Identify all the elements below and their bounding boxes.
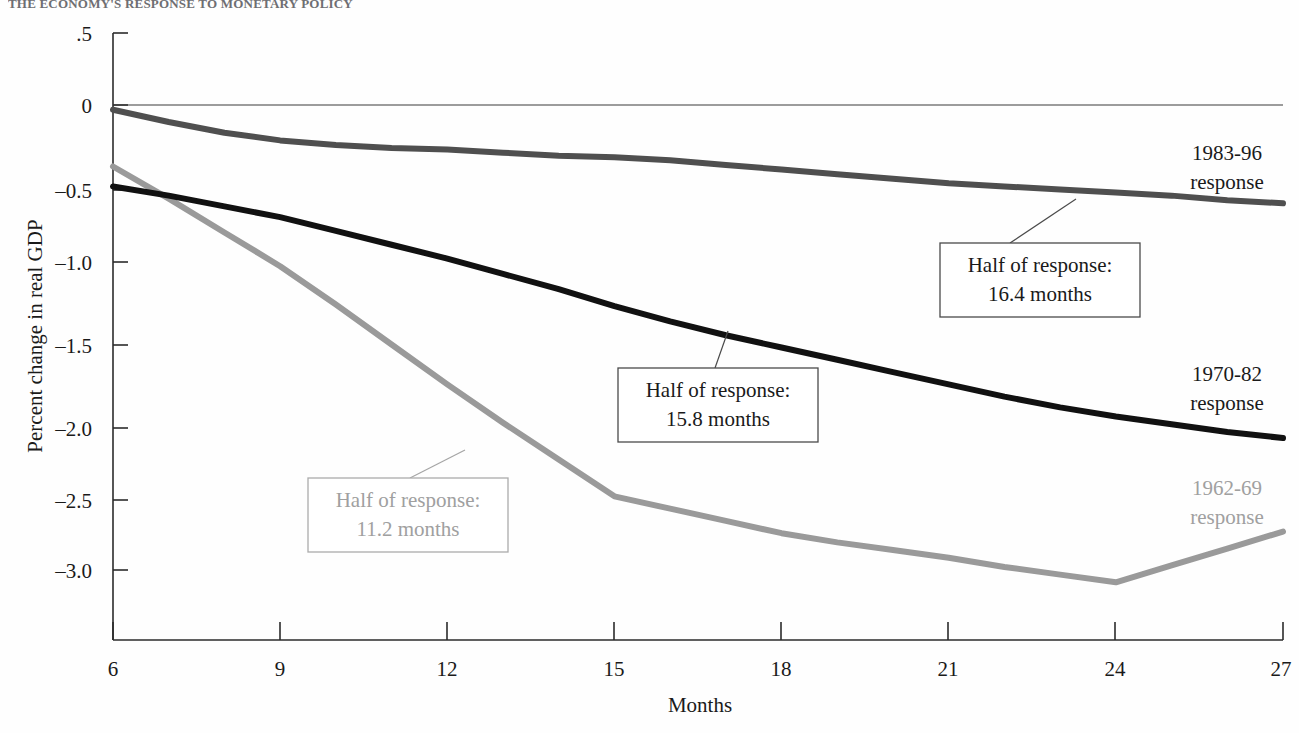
x-tick-label: 9 (275, 657, 286, 681)
y-tick-label: 0 (82, 94, 93, 118)
x-axis-title: Months (668, 693, 732, 717)
x-tick-label: 12 (437, 657, 458, 681)
annotation-line1: Half of response: (646, 378, 791, 402)
series-label-1962-69: 1962-69 response (1190, 476, 1263, 529)
chart-canvas: .5 0 –0.5 –1.0 –1.5 –2.0 –2.5 –3.0 (0, 0, 1299, 733)
series-label-line1: 1983-96 (1192, 141, 1262, 165)
y-tick-label: –2.5 (54, 489, 92, 513)
series-label-1983-96: 1983-96 response (1190, 141, 1263, 194)
x-tick-label: 18 (771, 657, 792, 681)
series-line-1983-96 (113, 110, 1283, 204)
y-tick-label: –2.0 (54, 417, 92, 441)
y-tick-label: .5 (76, 22, 92, 46)
x-tick-label: 24 (1105, 657, 1127, 681)
y-tick-label: –1.5 (54, 334, 92, 358)
annotation-line1: Half of response: (968, 253, 1113, 277)
y-axis-tick-labels: .5 0 –0.5 –1.0 –1.5 –2.0 –2.5 –3.0 (54, 22, 92, 583)
y-tick-label: –3.0 (54, 559, 92, 583)
x-tick-label: 6 (108, 657, 119, 681)
series-label-line2: response (1190, 505, 1263, 529)
x-axis-tick-labels: 6 9 12 15 18 21 24 27 (108, 657, 1292, 681)
annotation-half-response-1962-69: Half of response: 11.2 months (308, 450, 508, 552)
annotation-half-response-1983-96: Half of response: 16.4 months (940, 199, 1140, 317)
series-label-line1: 1970-82 (1192, 362, 1262, 386)
series-label-line1: 1962-69 (1192, 476, 1262, 500)
annotation-line1: Half of response: (336, 488, 481, 512)
annotation-line2: 16.4 months (988, 282, 1092, 306)
x-tick-label: 27 (1271, 657, 1292, 681)
x-tick-label: 21 (938, 657, 959, 681)
y-tick-label: –1.0 (54, 251, 92, 275)
series-label-line2: response (1190, 170, 1263, 194)
annotation-line2: 15.8 months (666, 407, 770, 431)
x-axis-ticks (113, 622, 1283, 640)
x-tick-label: 15 (604, 657, 625, 681)
series-label-line2: response (1190, 391, 1263, 415)
series-label-1970-82: 1970-82 response (1190, 362, 1263, 415)
annotation-line2: 11.2 months (356, 517, 459, 541)
y-axis-title: Percent change in real GDP (23, 219, 47, 452)
chart-figure: THE ECONOMY'S RESPONSE TO MONETARY POLIC… (0, 0, 1299, 733)
y-tick-label: –0.5 (54, 179, 92, 203)
